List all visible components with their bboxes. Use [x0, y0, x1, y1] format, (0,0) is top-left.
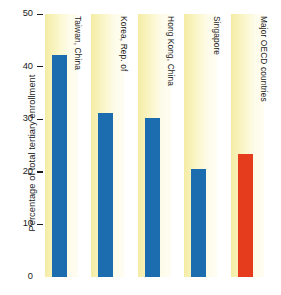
y-tick-mark	[37, 171, 43, 172]
y-axis: 01020304050	[0, 0, 43, 295]
category-label-taiwan-china: Taiwan, China	[73, 16, 83, 70]
y-tick-label: 20	[23, 166, 33, 176]
category-label-hong-kong-china: Hong Kong, China	[166, 16, 176, 86]
bar-singapore	[191, 169, 206, 277]
y-tick-label: 0	[28, 271, 33, 281]
category-label-korea-rep-of: Korea, Rep. of	[119, 16, 129, 71]
y-tick-label: 50	[23, 8, 33, 18]
bar-chart: Percentage of total tertiary enrollment …	[0, 0, 281, 295]
bar-korea-rep-of	[98, 113, 113, 277]
y-tick-label: 40	[23, 61, 33, 71]
y-tick-mark	[37, 66, 43, 67]
y-tick-mark	[37, 119, 43, 120]
y-tick-label: 10	[23, 218, 33, 228]
bar-hong-kong-china	[145, 118, 160, 277]
category-label-singapore: Singapore	[212, 16, 222, 55]
plot-area: Taiwan, ChinaKorea, Rep. ofHong Kong, Ch…	[45, 14, 277, 277]
bar-taiwan-china	[52, 55, 67, 277]
category-label-major-oecd-countries: Major OECD countries	[259, 16, 269, 102]
y-tick-label: 30	[23, 113, 33, 123]
bar-major-oecd-countries	[238, 154, 253, 277]
y-tick-mark	[37, 14, 43, 15]
y-tick-mark	[37, 224, 43, 225]
